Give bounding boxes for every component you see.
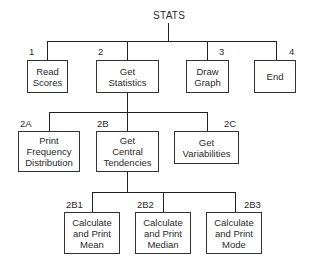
- node-calculate-mean: Calculate and Print Mean: [64, 212, 120, 254]
- connector-line: [92, 192, 236, 193]
- node-id-label: 2B1: [66, 200, 83, 210]
- node-end: End: [254, 60, 296, 93]
- node-id-label: 2: [98, 47, 103, 57]
- node-draw-graph: Draw Graph: [186, 60, 229, 93]
- connector-line: [235, 192, 236, 212]
- connector-line: [47, 41, 276, 42]
- connector-line: [127, 112, 128, 131]
- node-get-central-tendencies: Get Central Tendencies: [96, 131, 159, 172]
- node-id-label: 2B2: [137, 200, 154, 210]
- node-id-label: 2A: [20, 119, 32, 129]
- connector-line: [49, 112, 208, 113]
- node-calculate-median: Calculate and Print Median: [135, 212, 191, 254]
- connector-line: [127, 41, 128, 60]
- connector-line: [207, 41, 208, 60]
- connector-line: [168, 23, 169, 41]
- connector-line: [127, 172, 128, 192]
- node-print-frequency-distribution: Print Frequency Distribution: [18, 131, 80, 172]
- connector-line: [49, 112, 50, 131]
- node-read-scores: Read Scores: [27, 60, 68, 93]
- node-get-variabilities: Get Variabilities: [174, 131, 239, 164]
- node-get-statistics: Get Statistics: [96, 60, 159, 93]
- node-calculate-mode: Calculate and Print Mode: [206, 212, 262, 254]
- connector-line: [207, 112, 208, 131]
- connector-line: [163, 192, 164, 212]
- node-id-label: 3: [219, 47, 224, 57]
- connector-line: [92, 192, 93, 212]
- connector-line: [127, 93, 128, 112]
- node-id-label: 2B3: [244, 200, 261, 210]
- node-id-label: 2B: [97, 119, 109, 129]
- node-id-label: 1: [29, 47, 34, 57]
- connector-line: [276, 41, 277, 60]
- root-title: STATS: [153, 10, 185, 21]
- node-id-label: 2C: [224, 119, 236, 129]
- node-id-label: 4: [289, 47, 294, 57]
- connector-line: [47, 41, 48, 60]
